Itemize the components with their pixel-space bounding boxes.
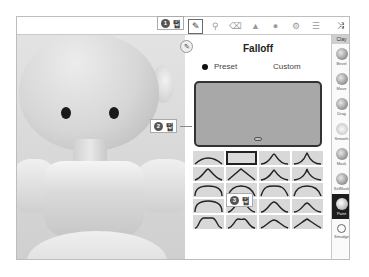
panel-title: Falloff [185,43,331,54]
smooth-icon [336,123,348,135]
falloff-curve-icon [194,216,223,229]
callout-number: 2 [154,122,163,131]
sphere-icon[interactable]: ● [268,19,283,34]
falloff-preset[interactable] [259,183,290,197]
brush-icon[interactable]: ⚲ [208,19,223,34]
sidebar-item-smudge[interactable]: Smudge [332,219,350,244]
sidebar-item-label: Paint [337,211,346,216]
callout-text: 탭 [242,195,249,206]
character-skirt [27,231,167,260]
callout-1: 1 탭 [157,16,184,30]
sidebar-item-bevel[interactable]: Bevel [332,44,350,69]
falloff-preset[interactable] [292,199,323,213]
curve-handle[interactable] [254,137,262,141]
falloff-curve-icon [194,184,223,197]
falloff-preset[interactable] [193,199,224,213]
eraser-icon[interactable]: ⌫ [228,19,243,34]
sidebar-item-paint[interactable]: Paint [332,194,350,219]
falloff-preset[interactable] [226,167,257,181]
falloff-preset[interactable] [193,183,224,197]
sidebar-item-mask[interactable]: Mask [332,144,350,169]
sidebar-item-label: Move [337,86,347,91]
sidebar-item-smooth[interactable]: Smooth [332,119,350,144]
sidebar-item-label: Mask [337,161,347,166]
character-eye-right [109,107,119,119]
sidebar-item-drag[interactable]: Drag [332,94,350,119]
paint-icon [336,198,348,210]
falloff-preset[interactable] [193,215,224,229]
falloff-preset[interactable] [193,167,224,181]
falloff-preset[interactable] [292,183,323,197]
falloff-curve-icon [293,200,322,213]
drag-icon [336,98,348,110]
falloff-curve-icon [227,168,256,181]
sidebar-item-label: Smooth [335,136,349,141]
character-head [19,35,159,151]
falloff-curve-icon [260,184,289,197]
falloff-preset[interactable] [259,199,290,213]
bevel-icon [336,48,348,60]
falloff-panel: Falloff Preset Custom [185,35,331,260]
falloff-curve-editor[interactable] [194,81,322,147]
pen-tool-button[interactable]: ✎ [180,40,193,53]
toolbar: ✎ ⚲ ⌫ ▲ ● ⚙ ☰ ⤨ [183,17,350,35]
sidebar-item-selmask[interactable]: SelMask [332,169,350,194]
falloff-preset[interactable] [226,215,257,229]
sidebar-item-move[interactable]: Move [332,69,350,94]
callout-leader [180,126,192,127]
falloff-preset[interactable] [226,151,257,165]
falloff-curve-icon [293,184,322,197]
falloff-curve-icon [260,168,289,181]
shuffle-icon[interactable]: ⤨ [332,19,347,34]
falloff-curve-icon [260,216,289,229]
callout-text: 탭 [173,18,180,29]
falloff-curve-icon [260,152,289,165]
falloff-curve-icon [293,168,322,181]
3d-viewport[interactable] [17,35,185,260]
sidebar-item-label: Drag [337,111,346,116]
falloff-mode-radio: Preset Custom [185,61,331,73]
falloff-curve-icon [260,200,289,213]
falloff-preset[interactable] [292,215,323,229]
triangle-icon[interactable]: ▲ [248,19,263,34]
falloff-curve-icon [227,216,256,229]
sidebar-item-label: SelMask [334,186,349,191]
falloff-curve-icon [194,152,223,165]
falloff-preset[interactable] [259,215,290,229]
callout-3: 3 탭 [226,193,253,207]
mask-icon [336,148,348,160]
callout-number: 1 [161,19,170,28]
menu-icon[interactable]: ☰ [308,19,323,34]
sidebar-item-label: Smudge [334,234,349,239]
sidebar-header: Clay [332,35,350,44]
callout-number: 3 [230,196,239,205]
selmask-icon [336,173,348,185]
character-bodice [44,161,144,239]
falloff-curve-icon [293,152,322,165]
radio-preset[interactable]: Preset [214,62,237,71]
smudge-icon [337,224,346,233]
settings-icon[interactable]: ⚙ [288,19,303,34]
app-window: ✎ ⚲ ⌫ ▲ ● ⚙ ☰ ⤨ Falloff Preset Custom Cl… [16,16,350,260]
radio-selected-icon[interactable] [202,64,208,70]
callout-text: 탭 [166,121,173,132]
falloff-preset[interactable] [292,167,323,181]
move-icon [336,73,348,85]
falloff-curve-icon [194,200,223,213]
falloff-preset[interactable] [292,151,323,165]
sidebar-item-label: Bevel [336,61,346,66]
preset-grid [193,151,323,229]
character-eye-left [61,107,71,119]
radio-custom[interactable]: Custom [273,62,301,71]
pen-icon[interactable]: ✎ [188,19,203,34]
falloff-curve-icon [293,216,322,229]
tool-sidebar: Clay Bevel Move Drag Smooth Mask SelMask… [331,35,350,260]
falloff-curve-icon [194,168,223,181]
falloff-preset[interactable] [259,151,290,165]
falloff-preset[interactable] [193,151,224,165]
callout-2: 2 탭 [150,119,177,133]
falloff-preset[interactable] [259,167,290,181]
